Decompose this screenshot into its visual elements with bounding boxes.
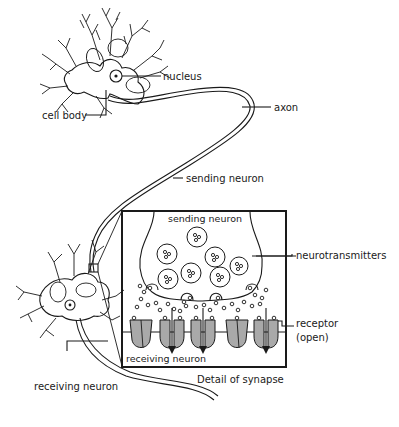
receptors xyxy=(130,308,278,354)
label-inset-sending-neuron: sending neuron xyxy=(168,213,242,224)
label-receptor-state: (open) xyxy=(296,332,329,343)
label-detail-of-synapse: Detail of synapse xyxy=(197,374,284,385)
label-receptor: receptor xyxy=(296,318,339,329)
neuron-synapse-diagram: nucleus cell body axon sending neuron se… xyxy=(0,0,399,427)
label-inset-receiving-neuron: receiving neuron xyxy=(126,353,206,364)
vesicles xyxy=(157,227,248,289)
label-sending-neuron: sending neuron xyxy=(186,173,264,184)
neurotransmitter-dots xyxy=(135,284,268,313)
synapse-inset xyxy=(122,211,286,367)
label-axon: axon xyxy=(274,102,298,113)
label-neurotransmitters: neurotransmitters xyxy=(296,250,386,261)
label-receiving-neuron: receiving neuron xyxy=(34,381,118,392)
label-cell-body: cell body xyxy=(42,110,87,121)
label-nucleus: nucleus xyxy=(163,71,202,82)
